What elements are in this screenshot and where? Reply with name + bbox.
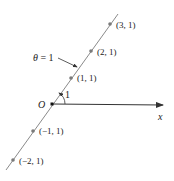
point-label: (−1, 1) xyxy=(39,126,64,136)
point-1-1: (1, 1) xyxy=(69,73,96,83)
origin-point xyxy=(51,103,54,106)
point-label: (−2, 1) xyxy=(19,156,44,166)
x-axis-label: x xyxy=(157,111,163,122)
theta-leader-arrow xyxy=(58,58,77,67)
x-axis xyxy=(52,104,163,105)
polar-line-diagram: x O 1 θ = 1 (3, 1) (2, 1) (1, 1) (−1, 1)… xyxy=(0,0,174,181)
point-label: (3, 1) xyxy=(116,20,136,30)
origin-label: O xyxy=(38,99,45,110)
point-label: (1, 1) xyxy=(77,73,97,83)
theta-label: θ = 1 xyxy=(33,52,54,63)
theta-equals: = 1 xyxy=(38,52,54,63)
point-label: (2, 1) xyxy=(97,47,117,57)
angle-label: 1 xyxy=(65,89,70,100)
point-neg2-1: (−2, 1) xyxy=(11,156,43,166)
theta-line xyxy=(6,14,118,170)
